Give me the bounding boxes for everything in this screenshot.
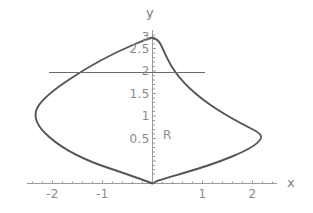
x-tick-label-minus1: -1	[96, 188, 109, 200]
y-axis-name: y	[146, 7, 154, 19]
x-tick-label-2: 2	[248, 188, 256, 200]
y-tick-label-1point5: 1.5	[129, 88, 150, 100]
y-tick-label-2: 2	[142, 65, 150, 77]
plot-figure: 3 2.5 2 1.5 1 0.5 -2 -1 1 2 y x R	[0, 0, 313, 213]
y-axis-ticks	[153, 35, 157, 174]
region-label-R: R	[163, 129, 172, 141]
plot-canvas	[0, 0, 313, 213]
y-tick-label-0point5: 0.5	[129, 133, 150, 145]
y-tick-label-2point5: 2.5	[129, 43, 150, 55]
y-tick-label-1: 1	[142, 110, 150, 122]
x-tick-label-1: 1	[198, 188, 206, 200]
x-axis-name: x	[287, 177, 295, 189]
x-tick-label-minus2: -2	[46, 188, 59, 200]
